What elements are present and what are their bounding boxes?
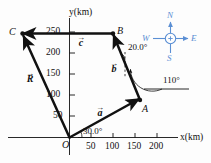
- y-tick-label-200: 200: [46, 48, 60, 58]
- x-tick-label-100: 100: [105, 142, 119, 152]
- angle-label-30: 30.0°: [83, 127, 102, 136]
- y-tick-label-100: 100: [46, 90, 60, 100]
- vector-diagram-figure: 250 200 150 100 50 50 100 150 200 y(km) …: [0, 0, 211, 163]
- vector-paths: [23, 34, 140, 138]
- angle-a-arc: [81, 131, 82, 137]
- vector-label-a: → a: [96, 106, 104, 118]
- x-tick-label-50: 50: [86, 142, 96, 152]
- compass-label-east: E: [191, 34, 197, 43]
- y-tick-label-50: 50: [53, 111, 63, 121]
- compass-rose: [153, 22, 188, 53]
- point-A-dot: [138, 98, 142, 102]
- angle-label-110: 110°: [163, 76, 180, 85]
- angle-label-20: 20.0°: [128, 43, 147, 52]
- point-B-dot: [111, 31, 115, 35]
- x-axis-title: x(km): [180, 133, 203, 143]
- compass-label-west: W: [142, 34, 150, 43]
- compass-label-south: S: [167, 54, 172, 63]
- x-tick-label-200: 200: [149, 142, 163, 152]
- vector-label-c: → c: [77, 36, 85, 48]
- point-label-B: B: [117, 26, 123, 36]
- point-label-C: C: [9, 27, 16, 37]
- vector-label-R: → R: [26, 72, 34, 84]
- point-label-O: O: [62, 140, 69, 150]
- point-C-dot: [20, 31, 24, 35]
- vector-R-glyph: R: [26, 74, 34, 84]
- y-tick-label-150: 150: [46, 69, 60, 79]
- x-tick-label-150: 150: [127, 142, 141, 152]
- y-axis-ticks: [70, 32, 76, 116]
- y-tick-label-250: 250: [46, 27, 60, 37]
- vector-a-arrow: [70, 99, 140, 138]
- compass-label-north: N: [167, 11, 173, 20]
- y-axis-title: y(km): [69, 8, 92, 18]
- point-label-A: A: [142, 104, 148, 114]
- vector-label-b: → b: [110, 62, 118, 74]
